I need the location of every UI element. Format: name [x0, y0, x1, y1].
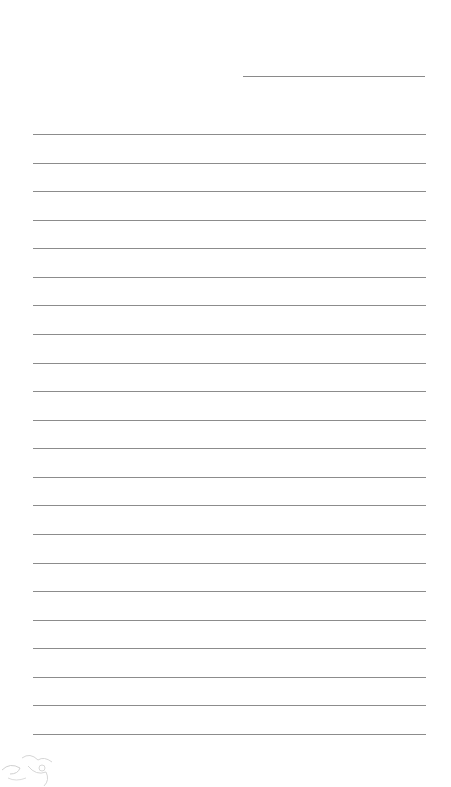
rule-line: [33, 591, 426, 592]
rule-line: [33, 363, 426, 364]
rule-line: [33, 420, 426, 421]
rule-line: [33, 620, 426, 621]
rule-line: [33, 534, 426, 535]
rule-line: [33, 391, 426, 392]
rule-line: [33, 505, 426, 506]
rule-line: [33, 677, 426, 678]
rule-line: [33, 305, 426, 306]
rule-line: [33, 477, 426, 478]
rule-line: [33, 563, 426, 564]
rule-line: [33, 248, 426, 249]
rule-line: [33, 334, 426, 335]
rule-line: [33, 220, 426, 221]
rule-line: [33, 734, 426, 735]
faded-header-text: [50, 0, 250, 10]
rule-line: [33, 448, 426, 449]
rule-line: [33, 277, 426, 278]
date-line: [243, 76, 425, 77]
rule-line: [33, 163, 426, 164]
rule-line: [33, 134, 426, 135]
rule-line: [33, 191, 426, 192]
rule-line: [33, 705, 426, 706]
sketch-doodle-icon: [0, 748, 60, 787]
rule-line: [33, 648, 426, 649]
